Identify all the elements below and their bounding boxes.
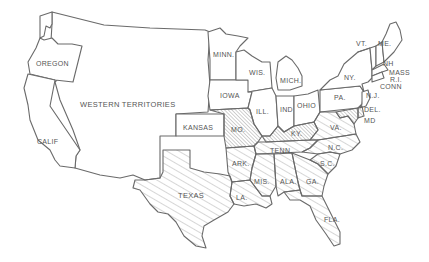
label-iowa: IOWA xyxy=(220,92,240,99)
us-civil-war-map: OREGON WESTERN TERRITORIES CALIF KANSAS … xyxy=(0,0,429,262)
label-new-hampshire: NH xyxy=(383,60,394,67)
label-illinois: ILL. xyxy=(256,108,269,115)
label-georgia: GA. xyxy=(306,178,319,185)
label-maryland: MD xyxy=(364,117,376,124)
label-florida: FLA. xyxy=(324,216,340,223)
label-connecticut: CONN xyxy=(380,83,402,90)
label-texas: TEXAS xyxy=(178,191,204,200)
label-pennsylvania: PA. xyxy=(334,94,346,101)
label-arkansas: ARK. xyxy=(232,160,250,167)
label-indiana: IND xyxy=(280,106,293,113)
label-western-territories: WESTERN TERRITORIES xyxy=(80,100,175,109)
label-kansas: KANSAS xyxy=(183,124,213,131)
label-louisiana: LA. xyxy=(236,194,247,201)
state-new-york xyxy=(320,48,372,92)
label-north-carolina: N.C. xyxy=(328,144,343,151)
label-rhode-island: R.I. xyxy=(390,76,402,83)
state-michigan xyxy=(276,56,302,90)
label-kentucky: KY. xyxy=(291,130,302,137)
label-new-jersey: N.J. xyxy=(366,92,380,99)
label-new-york: NY. xyxy=(344,74,356,81)
label-michigan: MICH. xyxy=(280,77,301,84)
label-missouri: MO. xyxy=(231,126,245,133)
label-ohio: OHIO xyxy=(297,102,316,109)
label-mississippi: MIS. xyxy=(254,178,270,185)
label-alabama: ALA. xyxy=(280,178,296,185)
label-vermont: VT. xyxy=(356,40,367,47)
label-delaware: DEL. xyxy=(364,106,381,113)
label-maine: ME. xyxy=(378,40,391,47)
label-wisconsin: WIS. xyxy=(249,69,265,76)
label-minnesota: MINN. xyxy=(213,51,234,58)
label-california: CALIF xyxy=(37,138,58,145)
label-virginia: VA. xyxy=(330,124,342,131)
label-oregon: OREGON xyxy=(36,60,69,67)
label-south-carolina: S.C. xyxy=(320,160,335,167)
state-washington-area xyxy=(40,12,52,38)
label-tennessee: TENN. xyxy=(270,147,293,154)
label-massachusetts: MASS xyxy=(389,69,410,76)
